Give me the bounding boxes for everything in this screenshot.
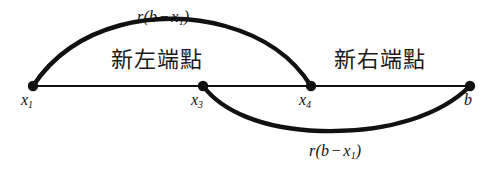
lower-arc-label-operator: − [329,142,343,159]
point-label-x1-subscript: 1 [28,99,33,110]
upper-arc-label: r(b−x1) [137,9,189,27]
upper-arc-label-suffix: ) [184,8,190,25]
point-label-x1: x1 [21,92,33,110]
point-label-b-base: b [464,91,472,108]
point-marker-x1 [28,81,38,91]
new-left-endpoint-annotation: 新左端點 [111,49,203,71]
upper-arc-label-operator: − [157,8,171,25]
lower-arc-label-prefix: r(b [309,142,329,159]
point-label-x3-subscript: 3 [198,99,203,110]
golden-section-search-diagram: r(b−x1) r(b−x1) 新左端點 新右端點 x1 x3 x4 b [0,0,493,170]
point-label-b: b [464,92,472,110]
lower-arc-curve [203,86,470,131]
point-label-x3: x3 [191,92,203,110]
point-marker-b [465,81,475,91]
upper-arc-label-prefix: r(b [137,8,157,25]
point-label-x4-subscript: 4 [306,99,311,110]
lower-arc-label: r(b−x1) [309,143,361,161]
point-marker-x3 [198,81,208,91]
new-right-endpoint-annotation: 新右端點 [334,49,426,71]
lower-arc-label-suffix: ) [356,142,362,159]
point-marker-x4 [306,81,316,91]
diagram-canvas [0,0,493,170]
point-label-x4: x4 [299,92,311,110]
